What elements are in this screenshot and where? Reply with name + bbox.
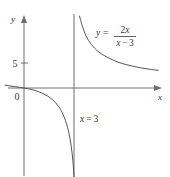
asymptote-label-op: = — [86, 114, 91, 124]
asymptote-label-var: x — [79, 114, 85, 124]
x-axis-arrow-icon — [154, 85, 162, 91]
equation-denominator-var: x — [115, 38, 121, 48]
graph-figure: y x 0 5 x=3 y = 2x x−3 — [0, 0, 170, 177]
y-tick-label-5: 5 — [13, 58, 18, 69]
y-axis-label: y — [10, 14, 15, 24]
equation-equals-sign: = — [103, 28, 108, 38]
equation-denominator: x−3 — [115, 38, 134, 48]
equation-lhs: y — [95, 28, 101, 38]
y-axis-arrow-icon — [21, 15, 27, 23]
equation-numerator: 2x — [121, 25, 131, 35]
equation-label: y = 2x x−3 — [95, 25, 136, 48]
equation-denominator-const: 3 — [129, 38, 134, 48]
origin-label: 0 — [15, 91, 20, 102]
equation-numerator-var: x — [124, 25, 130, 35]
x-axis-label: x — [157, 92, 162, 102]
equation-denominator-op: − — [122, 38, 127, 48]
asymptote-label-value: 3 — [94, 114, 99, 124]
asymptote-label: x=3 — [79, 114, 99, 124]
